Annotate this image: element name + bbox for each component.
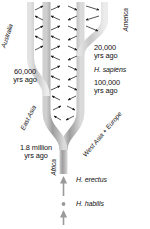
evolution-diagram: Australia 60,000 yrs ago East Asia 1.8 m… (0, 0, 150, 229)
label-time-1800k: 1.8 million yrs ago (12, 144, 60, 160)
label-h-erectus: H. erectus (76, 176, 107, 184)
gene-flow-arrows-westasia-america (86, 6, 99, 31)
gene-flow-arrows-australia-eastasia (35, 6, 43, 50)
region-america-text: America (122, 8, 129, 31)
time-100k-line2: yrs ago (94, 87, 120, 95)
h-erectus-text: H. erectus (76, 176, 107, 183)
label-time-60k: 60,000 yrs ago (5, 68, 45, 84)
label-time-20k: 20,000 yrs ago (94, 44, 118, 60)
time-20k-line2: yrs ago (94, 52, 118, 60)
h-habilis-text: H. habilis (76, 200, 104, 207)
label-h-habilis: H. habilis (76, 200, 104, 208)
gene-flow-arrows-africa-westasia (66, 6, 77, 120)
h-sapiens-text: H. sapiens (94, 66, 126, 73)
label-time-100k: 100,000 yrs ago (94, 79, 120, 95)
time-60k-line2: yrs ago (5, 76, 45, 84)
tree-graphic (0, 0, 150, 229)
label-region-africa: Africa (50, 159, 57, 175)
label-region-america: America (122, 8, 129, 31)
label-h-sapiens: H. sapiens (94, 66, 126, 74)
h-habilis-node (62, 202, 66, 206)
region-africa-text: Africa (50, 159, 57, 175)
